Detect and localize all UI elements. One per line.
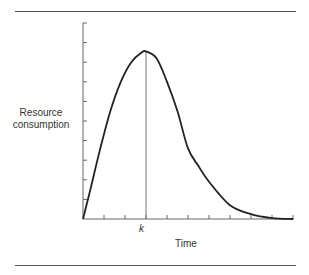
- k-tick-label: k: [139, 223, 144, 234]
- y-axis-label: Resource consumption: [2, 107, 80, 131]
- chart-plot: [0, 0, 309, 275]
- y-axis-label-line1: Resource: [2, 107, 80, 119]
- axes: [83, 23, 294, 219]
- x-axis-label: Time: [175, 238, 197, 249]
- y-axis-label-line2: consumption: [2, 119, 80, 131]
- bottom-rule: [15, 265, 296, 266]
- resource-curve: [83, 51, 293, 219]
